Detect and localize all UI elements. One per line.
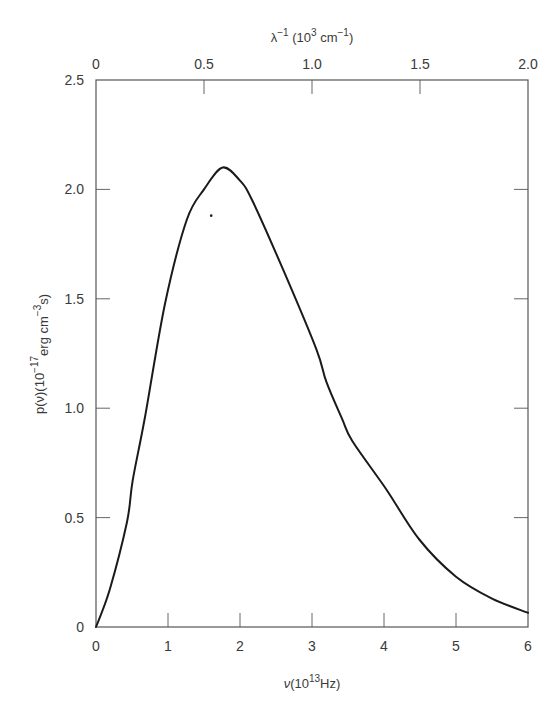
data-curve <box>96 167 528 627</box>
y-axis-title: p(ν)(10−17erg cm−3s) <box>29 294 51 414</box>
plot-frame <box>96 80 528 627</box>
x2-tick-label: 0 <box>92 56 100 72</box>
x2-tick-label: 2.0 <box>518 56 538 72</box>
top-axis-ticks: 00.51.01.52.0 <box>92 56 538 94</box>
stray-dot <box>210 214 213 217</box>
y-tick-label: 2.5 <box>65 72 85 88</box>
left-axis-ticks: 00.51.01.52.02.5 <box>65 72 528 635</box>
x-tick-label: 1 <box>164 638 172 654</box>
x-tick-label: 4 <box>380 638 388 654</box>
bottom-axis-ticks: 0123456 <box>92 613 532 654</box>
spectral-density-chart: λ−1 (103 cm−1) 00.51.01.52.0 0123456 00.… <box>0 0 560 708</box>
x2-tick-label: 1.0 <box>302 56 322 72</box>
x-tick-label: 2 <box>236 638 244 654</box>
y-tick-label: 1.0 <box>65 400 85 416</box>
x-tick-label: 3 <box>308 638 316 654</box>
y-tick-label: 0.5 <box>65 510 85 526</box>
top-axis-title: λ−1 (103 cm−1) <box>271 27 354 45</box>
y-tick-label: 2.0 <box>65 181 85 197</box>
x2-tick-label: 0.5 <box>194 56 214 72</box>
x-axis-title: ν(1013Hz) <box>284 673 341 691</box>
x2-tick-label: 1.5 <box>410 56 430 72</box>
y-tick-label: 1.5 <box>65 291 85 307</box>
y-tick-label: 0 <box>76 619 84 635</box>
x-tick-label: 0 <box>92 638 100 654</box>
x-tick-label: 5 <box>452 638 460 654</box>
x-tick-label: 6 <box>524 638 532 654</box>
